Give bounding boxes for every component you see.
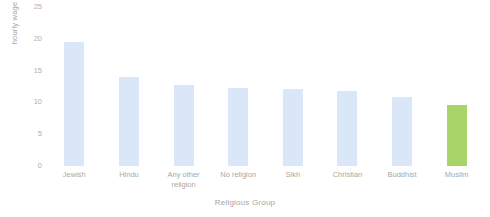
bar-slot <box>211 7 266 166</box>
x-axis-tick-labels: JewishHinduAny other religionNo religion… <box>47 170 484 196</box>
y-axis-title: hourly wage (£) <box>9 0 21 62</box>
bar-slot <box>156 7 211 166</box>
bar[interactable] <box>174 85 194 166</box>
bar[interactable] <box>64 42 84 166</box>
y-axis-tick-0: 0 <box>22 162 42 170</box>
x-axis-tick-label: No religion <box>211 170 266 180</box>
x-axis-tick-label: Buddhist <box>375 170 430 180</box>
bar[interactable] <box>228 88 248 166</box>
y-axis-tick-20: 20 <box>22 35 42 43</box>
bar[interactable] <box>337 91 357 166</box>
y-axis-tick-15: 15 <box>22 67 42 75</box>
bar-slot <box>375 7 430 166</box>
y-axis-tick-10: 10 <box>22 98 42 106</box>
x-axis-tick-label: Any other religion <box>156 170 211 189</box>
x-axis-tick-label: Hindu <box>102 170 157 180</box>
bar[interactable] <box>119 77 139 166</box>
x-axis-tick-label: Sikh <box>266 170 321 180</box>
y-axis-tick-5: 5 <box>22 130 42 138</box>
bar[interactable] <box>447 105 467 166</box>
x-axis-tick-label: Muslim <box>429 170 484 180</box>
bar-slot <box>47 7 102 166</box>
bar[interactable] <box>283 89 303 166</box>
bar[interactable] <box>392 97 412 166</box>
plot-area <box>47 7 484 166</box>
bar-slot <box>266 7 321 166</box>
x-axis-tick-label: Christian <box>320 170 375 180</box>
bar-slot <box>102 7 157 166</box>
x-axis-title: Religious Group <box>0 198 490 207</box>
bar-slot <box>429 7 484 166</box>
y-axis-tick-25: 25 <box>22 3 42 11</box>
x-axis-tick-label: Jewish <box>47 170 102 180</box>
bar-chart: hourly wage (£) 0510152025 JewishHinduAn… <box>0 0 490 217</box>
bar-slot <box>320 7 375 166</box>
y-axis-tick-labels: 0510152025 <box>22 0 42 217</box>
